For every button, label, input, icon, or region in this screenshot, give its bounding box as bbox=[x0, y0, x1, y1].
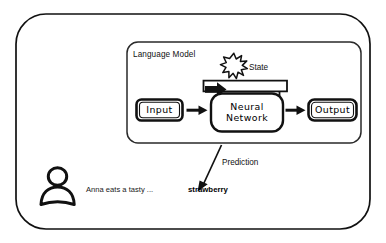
person-icon bbox=[41, 168, 74, 205]
user-sentence-text: Anna eats a tasty ... bbox=[86, 186, 153, 194]
neural-network-node-box bbox=[211, 94, 283, 132]
arrow-input-to-nn bbox=[187, 105, 208, 115]
language-model-label: Language Model bbox=[133, 51, 195, 59]
state-label: State bbox=[249, 64, 268, 72]
prediction-label: Prediction bbox=[222, 159, 258, 167]
predicted-word-text: strawberry bbox=[188, 186, 228, 194]
starburst-icon bbox=[220, 53, 247, 78]
arrow-nn-to-output bbox=[286, 105, 306, 115]
diagram-canvas: Language Model State Input Neural Networ… bbox=[0, 0, 386, 243]
diagram-vector-layer bbox=[0, 0, 386, 243]
